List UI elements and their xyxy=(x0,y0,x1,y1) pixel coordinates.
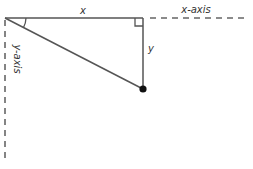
label-x-side: x xyxy=(79,5,86,16)
label-y-side: y xyxy=(147,43,155,54)
triangle-diagram: x y x-axis y-axis xyxy=(0,0,253,169)
hypotenuse-line xyxy=(5,18,143,89)
right-angle-marker-icon xyxy=(135,18,143,26)
point-dot-icon xyxy=(139,85,146,92)
angle-arc-icon xyxy=(24,18,27,28)
label-x-axis: x-axis xyxy=(180,4,211,15)
label-y-axis: y-axis xyxy=(12,43,23,73)
